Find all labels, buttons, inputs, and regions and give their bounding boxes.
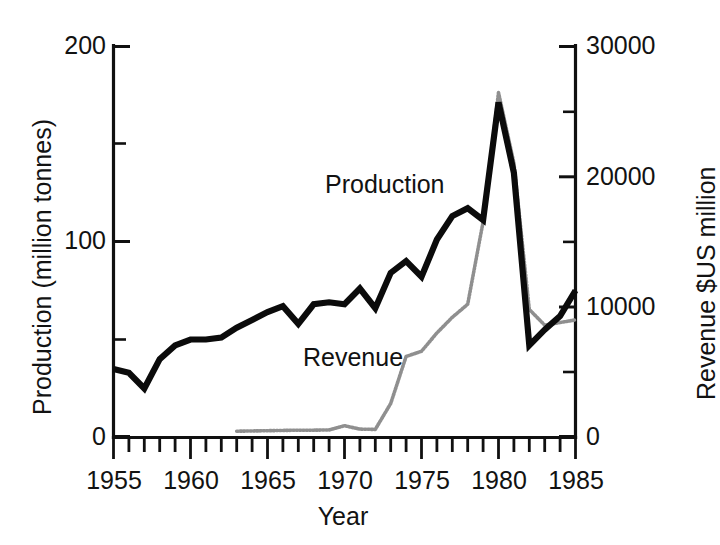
x-tick-1960: 1960	[154, 468, 228, 493]
series-label-production: Production	[325, 172, 445, 197]
x-axis-title: Year	[288, 504, 398, 529]
y-left-axis-title: Production (million tonnes)	[30, 119, 55, 415]
y-right-tick-30000: 30000	[586, 33, 656, 58]
x-tick-1975: 1975	[385, 468, 459, 493]
y-left-tick-200: 200	[28, 33, 106, 58]
bottom-axis-ticks	[114, 438, 576, 460]
y-right-tick-20000: 20000	[586, 164, 656, 189]
x-tick-1955: 1955	[77, 468, 151, 493]
y-right-axis-title: Revenue $US million	[694, 167, 719, 400]
y-left-tick-0: 0	[28, 424, 106, 449]
x-tick-1965: 1965	[231, 468, 305, 493]
right-axis-ticks	[559, 47, 576, 437]
x-tick-1980: 1980	[462, 468, 536, 493]
series-label-revenue: Revenue	[303, 345, 403, 370]
left-axis-ticks	[114, 47, 131, 437]
x-tick-1985: 1985	[539, 468, 613, 493]
y-right-tick-0: 0	[586, 424, 600, 449]
y-right-tick-10000: 10000	[586, 294, 656, 319]
x-tick-1970: 1970	[308, 468, 382, 493]
